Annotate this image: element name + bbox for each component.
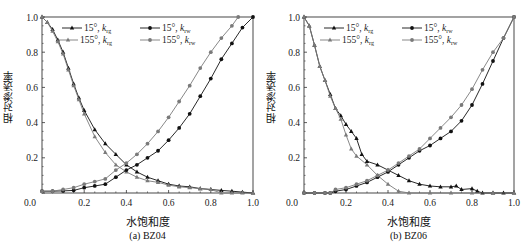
legend-item: 15°, krw bbox=[402, 23, 453, 34]
y-tick-label: 0.8 bbox=[288, 48, 300, 58]
x-tick-label: 0.2 bbox=[78, 198, 90, 208]
legend-label: 155°, krg bbox=[80, 35, 112, 46]
x-tick-label: 0.0 bbox=[286, 198, 298, 208]
y-tick-label: 0.2 bbox=[288, 153, 300, 163]
x-tick-label: 0.6 bbox=[163, 198, 175, 208]
series-155-k-rg bbox=[40, 15, 255, 195]
panel-a: 0.00.20.40.60.81.00.20.40.60.81.015°, kr… bbox=[0, 0, 263, 249]
chart-a-plot: 0.00.20.40.60.81.00.20.40.60.81.015°, kr… bbox=[0, 0, 263, 249]
chart-b-plot: 0.00.20.40.60.81.00.20.40.60.81.015°, kr… bbox=[263, 0, 526, 249]
panel-caption: (a) BZ04 bbox=[16, 230, 279, 241]
y-tick-label: 1.0 bbox=[26, 13, 38, 23]
y-tick-label: 0.4 bbox=[288, 118, 300, 128]
x-tick-label: 0.0 bbox=[24, 198, 36, 208]
legend: 15°, krg15°, krw155°, krg155°, krw bbox=[58, 23, 196, 46]
y-tick-label: 0.6 bbox=[288, 83, 300, 93]
y-axis-label: 相对渗透率 bbox=[1, 70, 15, 123]
legend-label: 15°, krg bbox=[346, 23, 373, 34]
legend-label: 15°, krw bbox=[162, 23, 191, 34]
legend-label: 15°, krg bbox=[84, 23, 111, 34]
legend-item: 15°, krw bbox=[140, 23, 191, 34]
y-tick-label: 0.2 bbox=[26, 153, 38, 163]
series-155-k-rw bbox=[40, 15, 240, 193]
series-155-k-rg bbox=[302, 15, 516, 195]
series-15-k-rg bbox=[40, 15, 255, 195]
x-tick-label: 0.8 bbox=[205, 198, 217, 208]
series-15-k-rw bbox=[40, 15, 255, 193]
legend-item: 155°, krw bbox=[140, 35, 196, 46]
y-axis-label: 相对渗透率 bbox=[264, 70, 278, 123]
legend-label: 155°, krg bbox=[342, 35, 374, 46]
panel-caption: (b) BZ06 bbox=[277, 230, 526, 241]
x-tick-label: 0.8 bbox=[466, 198, 478, 208]
x-tick-label: 0.4 bbox=[382, 198, 394, 208]
legend-item: 15°, krg bbox=[324, 23, 373, 34]
legend-item: 15°, krg bbox=[62, 23, 111, 34]
y-tick-label: 0.6 bbox=[26, 83, 38, 93]
x-tick-label: 1.0 bbox=[247, 198, 259, 208]
x-axis-label: 水饱和度 bbox=[16, 213, 279, 229]
legend-label: 155°, krw bbox=[162, 35, 196, 46]
y-tick-label: 1.0 bbox=[288, 13, 300, 23]
legend-item: 155°, krw bbox=[402, 35, 458, 46]
legend-label: 15°, krw bbox=[424, 23, 453, 34]
x-axis-label: 水饱和度 bbox=[277, 213, 526, 229]
x-tick-label: 0.4 bbox=[120, 198, 132, 208]
y-tick-label: 0.4 bbox=[26, 118, 38, 128]
legend: 15°, krg15°, krw155°, krg155°, krw bbox=[320, 23, 458, 46]
y-tick-label: 0.8 bbox=[26, 48, 38, 58]
legend-item: 155°, krg bbox=[58, 35, 112, 46]
legend-item: 155°, krg bbox=[320, 35, 374, 46]
x-tick-label: 0.6 bbox=[424, 198, 436, 208]
panel-b: 0.00.20.40.60.81.00.20.40.60.81.015°, kr… bbox=[263, 0, 526, 249]
legend-label: 155°, krw bbox=[424, 35, 458, 46]
x-tick-label: 0.2 bbox=[340, 198, 352, 208]
x-tick-label: 1.0 bbox=[508, 198, 520, 208]
